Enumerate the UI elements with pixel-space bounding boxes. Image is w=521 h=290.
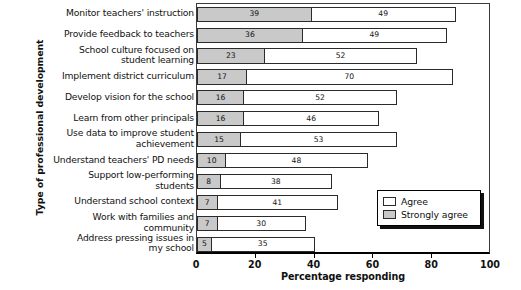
category-label-line: Implement district curriculum <box>62 71 194 81</box>
category-label: School culture focused onstudent learnin… <box>18 45 194 66</box>
category-label-line: Provide feedback to teachers <box>64 29 194 39</box>
bar-stack: 1048 <box>197 153 368 168</box>
bar-segment-strongly-agree: 16 <box>197 111 244 126</box>
bar-value-label: 36 <box>245 31 255 39</box>
y-axis-category-labels: Monitor teachers' instructionProvide fee… <box>18 3 194 254</box>
x-axis-tick <box>255 254 256 258</box>
bar-segment-strongly-agree: 16 <box>197 90 244 105</box>
bar-row: 1048 <box>197 150 489 171</box>
bar-stack: 1646 <box>197 111 379 126</box>
bar-stack: 730 <box>197 216 306 231</box>
bar-segment-agree: 48 <box>225 153 367 168</box>
bar-value-label: 49 <box>370 31 380 39</box>
bar-value-label: 5 <box>202 240 207 248</box>
bar-stack: 3649 <box>197 28 447 43</box>
category-label: Address pressing issues inmy school <box>18 233 194 254</box>
x-axis-tick-label: 20 <box>248 259 261 270</box>
bar-value-label: 10 <box>207 157 217 165</box>
bar-row: 535 <box>197 234 489 255</box>
bar-segment-agree: 52 <box>264 48 418 63</box>
bar-segment-agree: 35 <box>211 237 315 252</box>
category-label: Support low-performingstudents <box>18 170 194 191</box>
bar-stack: 3949 <box>197 7 456 22</box>
x-axis-title: Percentage responding <box>196 271 490 282</box>
bar-stack: 838 <box>197 174 332 189</box>
bar-segment-strongly-agree: 36 <box>197 28 303 43</box>
bar-row: 1553 <box>197 130 489 151</box>
bar-value-label: 38 <box>271 178 281 186</box>
category-label: Provide feedback to teachers <box>18 24 194 45</box>
bar-row: 1652 <box>197 88 489 109</box>
bar-value-label: 70 <box>345 73 355 81</box>
bar-segment-strongly-agree: 10 <box>197 153 226 168</box>
bar-row: 838 <box>197 171 489 192</box>
category-label-line: Develop vision for the school <box>65 92 194 102</box>
bar-segment-agree: 53 <box>240 132 397 147</box>
bar-value-label: 52 <box>315 94 325 102</box>
bar-row: 1646 <box>197 109 489 130</box>
bar-value-label: 35 <box>258 240 268 248</box>
bar-segment-strongly-agree: 15 <box>197 132 241 147</box>
bar-segment-strongly-agree: 5 <box>197 237 212 252</box>
category-label: Understand school context <box>18 191 194 212</box>
legend-item: Strongly agree <box>383 208 474 221</box>
category-label-line: Learn from other principals <box>73 113 194 123</box>
bar-stack: 2352 <box>197 48 418 63</box>
legend-item: Agree <box>383 195 474 208</box>
bar-segment-strongly-agree: 7 <box>197 216 218 231</box>
category-label-line: Understand teachers' PD needs <box>53 155 194 165</box>
bar-value-label: 15 <box>214 136 224 144</box>
category-label: Implement district curriculum <box>18 66 194 87</box>
category-label: Use data to improve studentachievement <box>18 129 194 150</box>
bar-stack: 1553 <box>197 132 397 147</box>
bar-value-label: 7 <box>205 220 210 228</box>
bar-stack: 535 <box>197 237 315 252</box>
x-axis-tick-label: 40 <box>307 259 320 270</box>
bar-value-label: 48 <box>292 157 302 165</box>
category-label: Learn from other principals <box>18 108 194 129</box>
bar-value-label: 53 <box>314 136 324 144</box>
bar-value-label: 16 <box>216 94 226 102</box>
bar-segment-agree: 52 <box>243 90 397 105</box>
x-axis-tick-label: 100 <box>480 259 500 270</box>
bar-value-label: 7 <box>205 199 210 207</box>
category-label-line: Monitor teachers' instruction <box>66 8 194 18</box>
legend-swatch-agree <box>383 197 396 206</box>
bar-segment-agree: 46 <box>243 111 379 126</box>
bar-value-label: 46 <box>306 115 316 123</box>
bar-segment-agree: 49 <box>311 7 456 22</box>
legend-label: Agree <box>401 196 428 207</box>
bar-segment-agree: 30 <box>217 216 306 231</box>
bar-segment-agree: 70 <box>246 69 453 84</box>
bar-row: 1770 <box>197 67 489 88</box>
bar-row: 2352 <box>197 46 489 67</box>
category-label: Understand teachers' PD needs <box>18 149 194 170</box>
bar-stack: 1770 <box>197 69 453 84</box>
category-label-line: achievement <box>136 139 194 149</box>
bar-value-label: 39 <box>249 10 259 18</box>
bar-segment-strongly-agree: 17 <box>197 69 247 84</box>
x-axis-tick <box>314 254 315 258</box>
bar-segment-strongly-agree: 7 <box>197 195 218 210</box>
x-axis-tick <box>431 254 432 258</box>
legend-label: Strongly agree <box>401 209 468 220</box>
bar-value-label: 23 <box>226 52 236 60</box>
bar-value-label: 49 <box>378 10 388 18</box>
bar-value-label: 52 <box>336 52 346 60</box>
bar-segment-strongly-agree: 39 <box>197 7 312 22</box>
category-label-line: Work with families and <box>93 212 194 222</box>
bar-row: 3649 <box>197 25 489 46</box>
category-label: Develop vision for the school <box>18 87 194 108</box>
category-label-line: student learning <box>121 55 194 65</box>
bar-segment-agree: 41 <box>217 195 339 210</box>
category-label-line: Understand school context <box>74 196 194 206</box>
bar-row: 3949 <box>197 4 489 25</box>
bar-value-label: 41 <box>273 199 283 207</box>
stacked-bar-chart: Type of professional development Monitor… <box>0 0 521 290</box>
category-label: Work with families andcommunity <box>18 212 194 233</box>
bar-segment-agree: 38 <box>220 174 333 189</box>
bar-value-label: 30 <box>256 220 266 228</box>
x-axis-tick-label: 80 <box>425 259 438 270</box>
bar-stack: 1652 <box>197 90 397 105</box>
bar-segment-strongly-agree: 23 <box>197 48 265 63</box>
